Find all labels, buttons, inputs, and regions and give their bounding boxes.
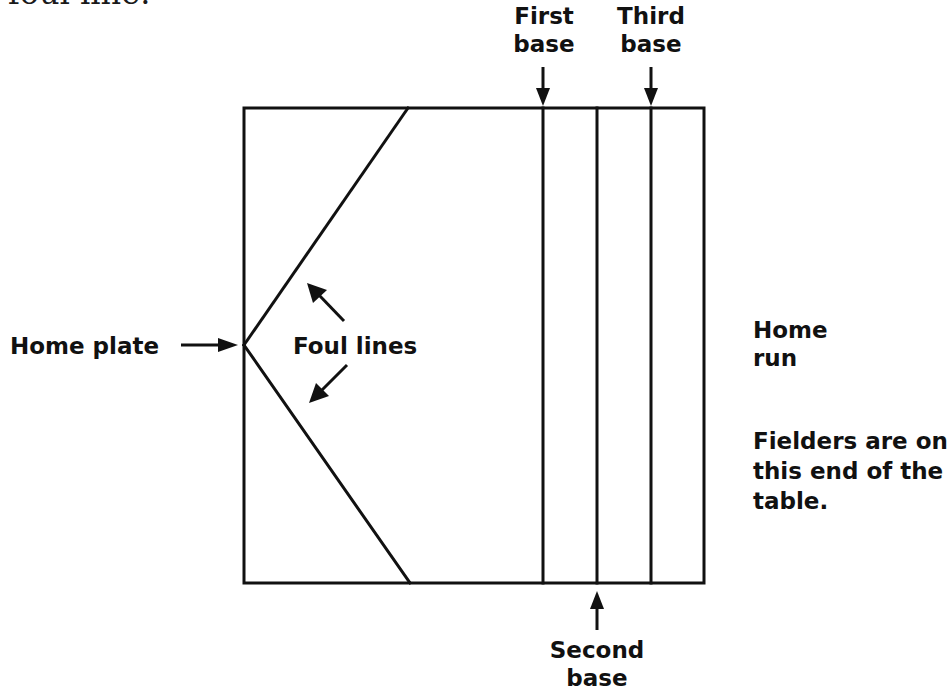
home-plate-label: Home plate xyxy=(10,332,159,360)
second-base-label: Second base xyxy=(540,636,654,692)
foul-line-upper-arrow-icon xyxy=(307,283,344,321)
foul-line-upper xyxy=(244,108,408,345)
third-base-label: Third base xyxy=(612,2,690,58)
first-base-arrow-icon xyxy=(536,67,550,106)
fielders-note: Fielders are on this end of the table. xyxy=(753,426,948,516)
first-base-label: First base xyxy=(509,2,579,58)
foul-line-lower xyxy=(244,345,410,583)
second-base-arrow-icon xyxy=(590,591,604,630)
third-base-arrow-icon xyxy=(644,67,658,106)
foul-lines-label: Foul lines xyxy=(293,332,417,360)
home-run-label: Home run xyxy=(753,316,828,372)
foul-line-lower-arrow-icon xyxy=(309,365,347,403)
home-plate-arrow-icon xyxy=(181,338,238,352)
